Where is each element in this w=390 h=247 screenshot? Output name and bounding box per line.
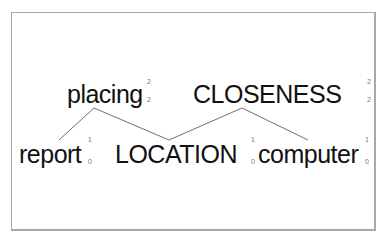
tree-edges [0, 0, 390, 247]
node-label: CLOSENESS [193, 82, 341, 107]
edge-placing-location [94, 108, 169, 140]
node-sup: 1 [251, 136, 255, 143]
node-sub: 0 [88, 158, 92, 165]
node-sub: 2 [367, 96, 371, 103]
node-sup: 2 [367, 78, 371, 85]
node-label: placing [67, 82, 143, 107]
node-sub: 2 [147, 96, 151, 103]
edge-closeness-location [169, 108, 242, 140]
node-sup: 1 [365, 136, 369, 143]
node-sup: 1 [88, 136, 92, 143]
node-sup: 2 [147, 78, 151, 85]
node-label: computer [258, 142, 358, 167]
node-sub: 0 [251, 158, 255, 165]
node-label: report [19, 142, 81, 167]
node-sub: 0 [365, 158, 369, 165]
node-label: LOCATION [115, 142, 237, 167]
